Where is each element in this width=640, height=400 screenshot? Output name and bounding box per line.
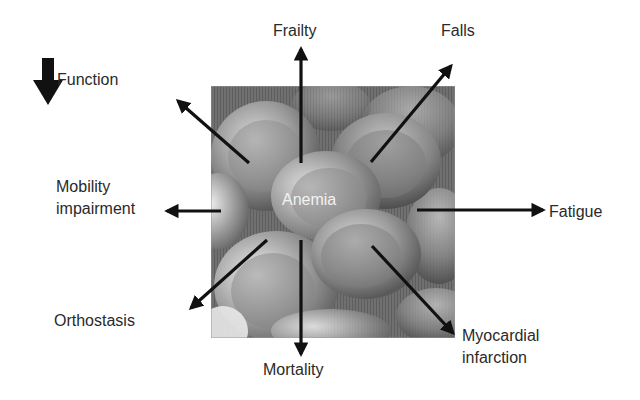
- arrow-myocardial-infarction: [372, 246, 453, 333]
- label-frailty: Frailty: [273, 21, 317, 40]
- label-fatigue: Fatigue: [549, 202, 602, 221]
- label-mobility-line2: impairment: [56, 199, 135, 218]
- arrow-falls: [371, 66, 451, 162]
- label-myocardial-line2: infarction: [462, 348, 539, 367]
- arrow-orthostasis: [191, 240, 267, 308]
- label-mobility-impairment: Mobility impairment: [56, 177, 135, 218]
- label-mobility-line1: Mobility: [56, 177, 135, 196]
- arrow-function: [178, 101, 249, 163]
- label-falls: Falls: [441, 21, 475, 40]
- label-mortality: Mortality: [263, 360, 323, 379]
- label-orthostasis: Orthostasis: [54, 311, 135, 330]
- label-myocardial-infarction: Myocardial infarction: [462, 326, 539, 367]
- label-myocardial-line1: Myocardial: [462, 326, 539, 345]
- label-function: Function: [57, 70, 118, 89]
